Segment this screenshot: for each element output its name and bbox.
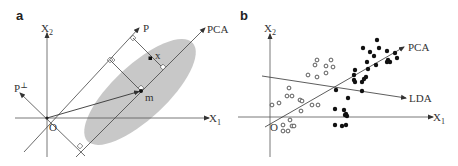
filled-data-point: [377, 46, 381, 50]
open-data-point: [277, 101, 281, 105]
open-data-point: [285, 94, 289, 98]
sample-label: x: [155, 49, 161, 61]
filled-data-point: [366, 67, 370, 71]
filled-data-point: [372, 54, 376, 58]
lda-axis: [262, 76, 406, 98]
filled-data-point: [360, 89, 364, 93]
lda-label: LDA: [409, 92, 432, 104]
right-angle-marker: [77, 143, 83, 149]
filled-data-point: [364, 75, 368, 79]
x1-axis-label: X1: [209, 112, 221, 127]
p-axis-label: P: [143, 22, 149, 34]
filled-data-point: [333, 107, 337, 111]
filled-data-point: [345, 114, 349, 118]
mean-label: m: [145, 91, 154, 103]
open-data-point: [281, 123, 285, 127]
origin-point: [45, 116, 48, 119]
filled-data-point: [365, 60, 369, 64]
open-data-point: [331, 65, 335, 69]
figure: a X2 X1 O P P⊥ PCA m: [0, 0, 458, 166]
open-data-point: [315, 75, 319, 79]
filled-data-point: [342, 108, 346, 112]
open-data-point: [281, 129, 285, 133]
filled-data-point: [361, 46, 365, 50]
open-data-point: [287, 86, 291, 90]
filled-data-point: [395, 56, 399, 60]
filled-data-point: [340, 124, 344, 128]
open-data-point: [315, 58, 319, 62]
filled-data-point: [352, 73, 356, 77]
filled-data-point: [346, 96, 350, 100]
panel-a-label: a: [16, 8, 24, 23]
p-perp-axis-label: P⊥: [14, 81, 28, 94]
origin-label: O: [270, 121, 278, 133]
pca-label: PCA: [408, 41, 429, 53]
filled-data-point: [353, 68, 357, 72]
filled-data-point: [375, 38, 379, 42]
class-filled-points: [333, 38, 399, 128]
open-data-point: [329, 58, 333, 62]
open-data-point: [288, 118, 292, 122]
panel-b: b X2 X1 O PCA LDA: [238, 8, 445, 157]
class-open-points: [270, 58, 335, 133]
origin-label: O: [49, 121, 57, 133]
filled-data-point: [385, 49, 389, 53]
open-data-point: [316, 103, 320, 107]
filled-data-point: [353, 80, 357, 84]
filled-data-point: [393, 51, 397, 55]
x1-axis-label: X1: [433, 111, 445, 126]
open-data-point: [324, 71, 328, 75]
open-data-point: [300, 99, 304, 103]
open-data-point: [290, 94, 294, 98]
open-data-point: [299, 109, 303, 113]
panel-b-label: b: [240, 8, 248, 23]
open-data-point: [270, 103, 274, 107]
filled-data-point: [333, 123, 337, 127]
figure-svg: a X2 X1 O P P⊥ PCA m: [0, 0, 458, 166]
filled-data-point: [344, 123, 348, 127]
open-data-point: [306, 73, 310, 77]
filled-data-point: [368, 50, 372, 54]
filled-data-point: [334, 88, 338, 92]
open-data-point: [292, 124, 296, 128]
filled-data-point: [385, 60, 389, 64]
filled-data-point: [374, 63, 378, 67]
pca-label: PCA: [207, 23, 228, 35]
open-data-point: [286, 129, 290, 133]
open-data-point: [310, 103, 314, 107]
mean-point: [139, 89, 143, 93]
open-data-point: [313, 63, 317, 67]
open-data-point: [324, 64, 328, 68]
panel-a: a X2 X1 O P P⊥ PCA m: [14, 8, 228, 161]
sample-point: [149, 57, 153, 61]
